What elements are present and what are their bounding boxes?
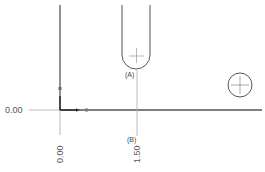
slot-tag-label: (A) (125, 71, 134, 79)
origin-axis-icon (59, 87, 89, 112)
ordinate-label-x-b[interactable]: 1.50 (132, 145, 142, 163)
slot-center-mark-icon (129, 48, 144, 63)
hole-center-mark-icon (231, 76, 249, 94)
ordinate-label-x-origin[interactable]: 0.00 (55, 145, 65, 163)
slot-feature[interactable] (122, 5, 150, 69)
ordinate-label-y-origin[interactable]: 0.00 (5, 105, 23, 115)
drawing-canvas: 0.00 0.00 (A) (B) 1.50 (0, 0, 265, 172)
hole-feature[interactable] (228, 73, 252, 97)
ordinate-tag-b: (B) (127, 136, 136, 144)
